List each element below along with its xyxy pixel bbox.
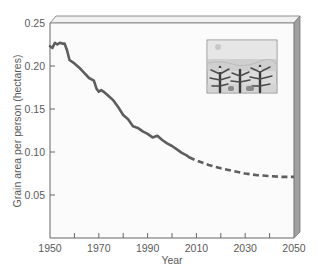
y-tick-label: 0.15	[25, 103, 46, 115]
x-tick-label: 1950	[38, 242, 62, 254]
x-tick-label: 1990	[136, 242, 160, 254]
x-tick-label: 2010	[185, 242, 209, 254]
x-tick-label: 1970	[87, 242, 111, 254]
x-tick-label: 2030	[234, 242, 258, 254]
y-axis-title: Grain area per person (hectares)	[11, 55, 23, 208]
x-tick-label: 2050	[282, 242, 306, 254]
y-tick-label: 0.20	[25, 60, 46, 72]
grain-field-illustration	[207, 40, 277, 93]
frame-top-face	[50, 16, 300, 23]
y-tick-label: 0.25	[25, 17, 46, 29]
grain-area-chart: 0.050.100.150.200.25 1950197019902010203…	[0, 0, 318, 278]
sun-icon	[215, 44, 221, 50]
frame-right-side	[294, 16, 300, 238]
y-tick-label: 0.05	[25, 189, 46, 201]
y-tick-label: 0.10	[25, 146, 46, 158]
x-axis-title: Year	[161, 254, 183, 266]
